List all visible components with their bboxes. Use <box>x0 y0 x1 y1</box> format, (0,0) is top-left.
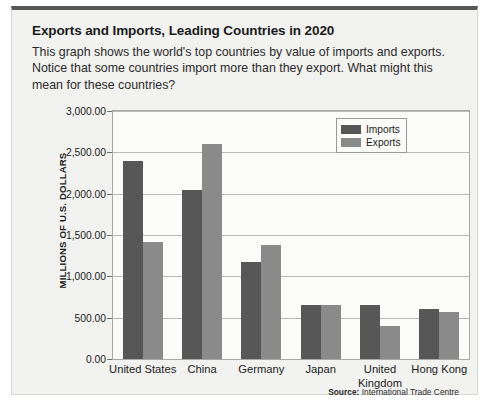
bar-group <box>113 111 172 359</box>
y-axis-tick-label: 1,500.00 <box>26 230 106 241</box>
legend-swatch-exports-icon <box>341 138 361 147</box>
chart-legend: Imports Exports <box>336 118 407 153</box>
y-axis-tick-label: 1,000.00 <box>26 271 106 282</box>
bar-imports <box>301 305 321 359</box>
y-axis-tick-label: 500.00 <box>26 312 106 323</box>
bar-imports <box>123 161 143 359</box>
y-axis-tickmark <box>107 194 112 195</box>
bar-group <box>232 111 291 359</box>
y-axis-tickmark <box>107 276 112 277</box>
page-root: Exports and Imports, Leading Countries i… <box>0 0 490 411</box>
bar-imports <box>419 309 439 359</box>
y-axis-tick-label: 3,000.00 <box>26 106 106 117</box>
bar-group <box>410 111 469 359</box>
bar-exports <box>143 242 163 359</box>
bar-exports <box>202 144 222 359</box>
source-note: Source: International Trade Centre <box>328 387 459 397</box>
y-axis-tickmark <box>107 152 112 153</box>
y-axis-tick-label: 2,500.00 <box>26 147 106 158</box>
y-axis-tickmark <box>107 318 112 319</box>
legend-label-exports: Exports <box>366 137 401 148</box>
legend-swatch-imports-icon <box>341 125 361 134</box>
legend-label-imports: Imports <box>366 124 400 135</box>
bar-imports <box>241 262 261 359</box>
bar-exports <box>380 326 400 359</box>
y-axis-tickmark <box>107 111 112 112</box>
y-axis-tickmark <box>107 359 112 360</box>
legend-item-imports: Imports <box>341 123 401 135</box>
source-prefix: Source: <box>328 387 359 397</box>
y-axis-tick-label: 2,000.00 <box>26 188 106 199</box>
x-axis-label: Hong Kong <box>400 363 479 377</box>
y-axis-tick-label: 0.00 <box>26 354 106 365</box>
chart-container: MILLIONS OF U.S. DOLLARS 0.00500.001,000… <box>30 97 470 393</box>
chart-card: Exports and Imports, Leading Countries i… <box>11 6 478 395</box>
source-text: International Trade Centre <box>362 387 459 397</box>
bar-exports <box>439 312 459 359</box>
bar-exports <box>321 305 341 359</box>
y-axis-tickmark <box>107 235 112 236</box>
bar-group <box>172 111 231 359</box>
card-description: This graph shows the world's top countri… <box>32 44 464 93</box>
page-title: Exports and Imports, Leading Countries i… <box>32 23 452 38</box>
bar-imports <box>360 305 380 359</box>
bars-layer <box>113 111 469 359</box>
legend-item-exports: Exports <box>341 136 401 148</box>
bar-imports <box>182 190 202 359</box>
bar-exports <box>261 245 281 359</box>
